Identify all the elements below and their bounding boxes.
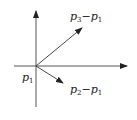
label-p2-minus-p1: p2−p1 (70, 83, 102, 97)
vector-p2-minus-p1 (36, 66, 63, 83)
label-p3-minus-p1: p3−p1 (70, 10, 102, 24)
vector-p3-minus-p1 (36, 28, 82, 66)
vector-diagram: p1 p3−p1 p2−p1 (0, 0, 137, 120)
origin-label: p1 (22, 71, 34, 85)
